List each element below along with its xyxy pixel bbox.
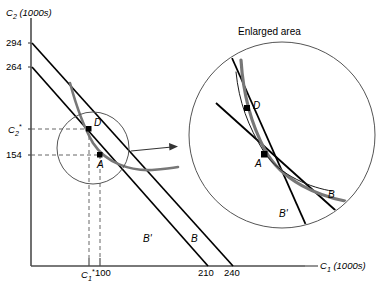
x-axis-title: C1 (1000s) <box>320 261 366 273</box>
magnify-source-circle <box>57 112 129 184</box>
tick-marks-group <box>28 43 100 266</box>
y-axis-title: C2 (1000s) <box>6 8 52 20</box>
inset-budget-label-B: B <box>328 190 335 200</box>
inset-indifference-curve-high <box>241 60 345 201</box>
inset-budget-line-B <box>216 103 344 218</box>
inset-point-label-A: A <box>255 159 262 169</box>
point-label-D: D <box>94 118 101 128</box>
inset-point-A-marker <box>261 151 268 158</box>
point-D-marker <box>86 126 92 132</box>
enlarged-area-circle <box>189 42 375 228</box>
arrow-head <box>169 143 178 151</box>
x-tick-label-c1-star: C1* <box>81 268 95 282</box>
inset-contents <box>216 58 345 250</box>
inset-point-D-marker <box>244 105 250 111</box>
y-tick-label-264: 264 <box>6 62 22 72</box>
guide-lines-group <box>31 129 100 258</box>
y-tick-label-154: 154 <box>6 150 22 160</box>
budget-line-B-prime <box>32 67 208 266</box>
budget-lines-group <box>32 43 233 266</box>
budget-label-B: B <box>191 234 198 244</box>
inset-budget-label-B-prime: B' <box>279 209 288 219</box>
budget-line-B <box>32 43 233 266</box>
x-tick-label-240: 240 <box>224 268 240 278</box>
inset-point-label-D: D <box>253 101 260 111</box>
budget-label-B-prime: B' <box>143 234 152 244</box>
y-tick-label-294: 294 <box>6 38 22 48</box>
point-label-A: A <box>97 160 104 170</box>
enlarged-area-title: Enlarged area <box>238 27 301 37</box>
magnify-connector-arrow <box>131 143 178 151</box>
points-group-main <box>86 126 103 158</box>
y-tick-label-c2-star: C2* <box>8 123 22 137</box>
point-A-marker <box>97 152 103 158</box>
x-tick-label-210: 210 <box>198 268 214 278</box>
x-tick-label-100: 100 <box>95 268 111 278</box>
